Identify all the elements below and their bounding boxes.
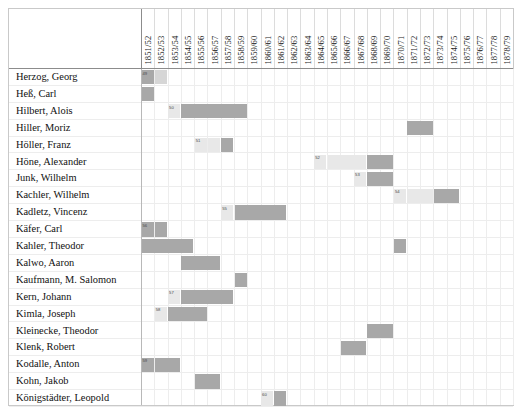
heatmap-cell[interactable] — [181, 256, 220, 270]
column-header-1851-52: 1851/52 — [141, 9, 154, 68]
heatmap-cell[interactable] — [274, 391, 286, 405]
column-header-label: 1868/69 — [370, 36, 379, 65]
column-header-1855-56: 1855/56 — [194, 9, 207, 68]
column-header-1869-70: 1869/70 — [380, 9, 393, 68]
heatmap-cell[interactable]: 57 — [168, 290, 180, 304]
heatmap-cell[interactable] — [367, 324, 392, 338]
grid-column-line — [327, 69, 328, 405]
heatmap-cell[interactable]: 49 — [142, 70, 154, 84]
column-header-1861-62: 1861/62 — [274, 9, 287, 68]
heatmap-cell-number: 58 — [156, 307, 161, 312]
heatmap-cell[interactable] — [407, 121, 432, 135]
heatmap-cell[interactable] — [181, 290, 233, 304]
grid-column-line — [300, 69, 301, 405]
column-header-1878-79: 1878/79 — [500, 9, 513, 68]
column-header-1866-67: 1866/67 — [340, 9, 353, 68]
heatmap-cell[interactable] — [208, 138, 220, 152]
column-header-1860-61: 1860/61 — [261, 9, 274, 68]
heatmap-cell[interactable]: 51 — [195, 138, 207, 152]
column-header-1875-76: 1875/76 — [460, 9, 473, 68]
column-header-label: 1877/78 — [489, 36, 498, 65]
heatmap-cell-number: 52 — [315, 155, 320, 160]
heatmap-cell[interactable]: 58 — [155, 307, 167, 321]
row-label-person-name: Junk, Wilhelm — [16, 170, 77, 187]
heatmap-cell[interactable] — [328, 155, 367, 169]
column-header-label: 1857/58 — [224, 36, 233, 65]
heatmap-cell-number: 59 — [143, 358, 148, 363]
column-header-1858-59: 1858/59 — [234, 9, 247, 68]
heatmap-cell-number: 51 — [196, 138, 201, 143]
column-header-label: 1870/71 — [396, 36, 405, 65]
grid-column-line — [181, 69, 182, 405]
column-header-label: 1867/68 — [356, 36, 365, 65]
timeline-heatmap-chart: 1851/521852/531853/541854/551855/561856/… — [0, 0, 522, 414]
column-header-1853-54: 1853/54 — [168, 9, 181, 68]
grid-column-line — [513, 69, 514, 405]
grid-column-line — [473, 69, 474, 405]
heatmap-cell[interactable] — [235, 205, 287, 219]
column-header-label: 1878/79 — [503, 36, 512, 65]
row-label-person-name: Käfer, Carl — [16, 221, 62, 238]
column-header-1877-78: 1877/78 — [486, 9, 499, 68]
heatmap-cell[interactable]: 55 — [221, 205, 233, 219]
grid-column-line — [407, 69, 408, 405]
heatmap-cell[interactable]: 50 — [168, 104, 180, 118]
grid-column-line — [221, 69, 222, 405]
heatmap-cell[interactable] — [195, 374, 220, 388]
column-header-1864-65: 1864/65 — [314, 9, 327, 68]
column-header-label: 1862/63 — [290, 36, 299, 65]
column-header-1868-69: 1868/69 — [367, 9, 380, 68]
heatmap-cell[interactable] — [367, 172, 392, 186]
grid-column-line — [420, 69, 421, 405]
grid-column-line — [433, 69, 434, 405]
column-header-1867-68: 1867/68 — [354, 9, 367, 68]
column-header-label: 1872/73 — [423, 36, 432, 65]
row-label-person-name: Kodalle, Anton — [16, 356, 80, 373]
heatmap-cell[interactable] — [142, 239, 194, 253]
heatmap-cell[interactable] — [367, 155, 392, 169]
heatmap-cell-number: 57 — [169, 290, 174, 295]
heatmap-cell[interactable] — [142, 87, 154, 101]
heatmap-cell[interactable]: 54 — [394, 189, 406, 203]
row-label-person-name: Herzog, Georg — [16, 69, 78, 86]
row-label-person-name: Kimla, Joseph — [16, 306, 75, 323]
heatmap-cell[interactable] — [341, 341, 366, 355]
grid-column-line — [314, 69, 315, 405]
heatmap-cell[interactable]: 59 — [142, 358, 154, 372]
heatmap-cell[interactable] — [155, 358, 180, 372]
heatmap-cell[interactable]: 53 — [354, 172, 366, 186]
grid-column-line — [261, 69, 262, 405]
heatmap-cell[interactable] — [235, 273, 247, 287]
heatmap-grid-body: Herzog, GeorgHeß, CarlHilbert, AloisHill… — [9, 69, 513, 405]
row-label-person-name: Klenk, Robert — [16, 339, 75, 356]
heatmap-cell[interactable]: 52 — [314, 155, 326, 169]
column-header-label: 1860/61 — [263, 36, 272, 65]
column-header-label: 1861/62 — [277, 36, 286, 65]
column-header-label: 1876/77 — [476, 36, 485, 65]
grid-column-line — [194, 69, 195, 405]
column-header-1852-53: 1852/53 — [154, 9, 167, 68]
heatmap-cell[interactable] — [407, 189, 432, 203]
grid-column-line — [486, 69, 487, 405]
row-label-person-name: Kadletz, Vincenz — [16, 204, 87, 221]
column-header-label: 1866/67 — [343, 36, 352, 65]
heatmap-cell[interactable] — [394, 239, 406, 253]
heatmap-cell[interactable] — [168, 307, 207, 321]
heatmap-cell[interactable] — [155, 70, 167, 84]
heatmap-cell[interactable] — [221, 138, 233, 152]
heatmap-cell[interactable] — [155, 222, 167, 236]
column-header-label: 1855/56 — [197, 36, 206, 65]
column-header-row: 1851/521852/531853/541854/551855/561856/… — [9, 9, 513, 68]
column-header-1862-63: 1862/63 — [287, 9, 300, 68]
heatmap-cell[interactable] — [181, 104, 246, 118]
column-header-label: 1859/60 — [250, 36, 259, 65]
grid-column-line — [367, 69, 368, 405]
column-header-1872-73: 1872/73 — [420, 9, 433, 68]
column-header-1871-72: 1871/72 — [407, 9, 420, 68]
heatmap-cell[interactable] — [434, 189, 459, 203]
row-label-person-name: Kachler, Wilhelm — [16, 187, 89, 204]
heatmap-cell[interactable]: 56 — [142, 222, 154, 236]
heatmap-cell[interactable]: 60 — [261, 391, 273, 405]
column-header-label: 1858/59 — [237, 36, 246, 65]
grid-column-line — [154, 69, 155, 405]
